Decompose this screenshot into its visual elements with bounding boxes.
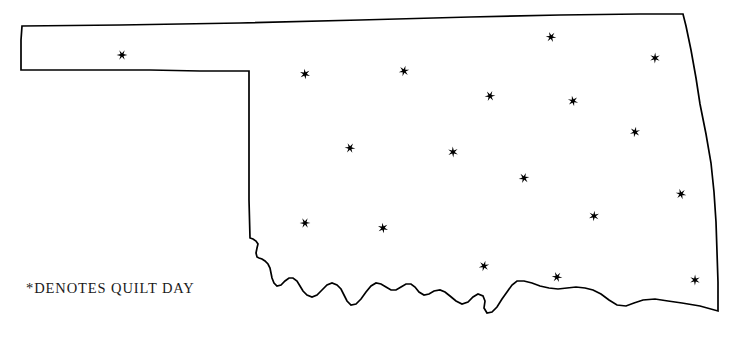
- state-boundary-path: [21, 14, 718, 313]
- quilt-day-map: *DENOTES QUILT DAY: [0, 0, 738, 339]
- legend-caption: *DENOTES QUILT DAY: [26, 281, 195, 296]
